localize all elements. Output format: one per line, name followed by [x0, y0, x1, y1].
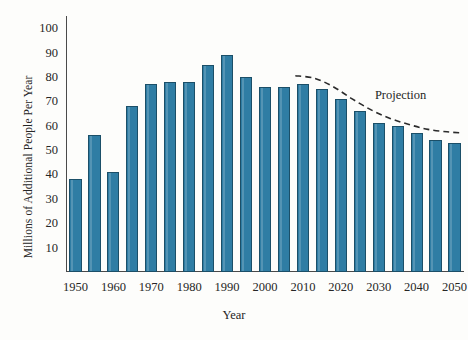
- population-growth-chart: Millions of Additional People Per Year 1…: [0, 0, 468, 340]
- projection-annotation-label: Projection: [375, 88, 426, 103]
- x-axis-title: Year: [0, 308, 468, 323]
- x-tick-label: 2050: [431, 281, 468, 294]
- plot-area: Projection: [66, 16, 464, 272]
- y-axis-title: Millions of Additional People Per Year: [22, 52, 46, 282]
- projection-curve: [66, 16, 464, 272]
- y-tick-label: 100: [18, 22, 58, 34]
